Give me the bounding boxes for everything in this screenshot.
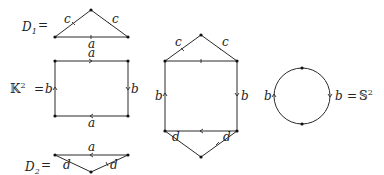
vertex-dot	[126, 35, 129, 38]
klein-label-bottom: a	[88, 116, 95, 130]
vertex-dot	[89, 8, 92, 11]
d1-equals: =	[38, 18, 48, 32]
hex-label-ur: c	[222, 35, 229, 49]
vertex-dot	[126, 59, 129, 62]
d1-name: D1	[21, 20, 37, 36]
klein-rect	[55, 61, 128, 116]
hex-label-ll: d	[172, 130, 180, 144]
hex-label-right: b	[241, 89, 249, 103]
d2-triangle: a D2 = d d	[24, 140, 130, 175]
vertex-dot	[53, 59, 56, 62]
vertex-dot	[126, 114, 129, 117]
sphere-label-right: b	[335, 89, 343, 103]
vertex-dot	[300, 122, 303, 125]
vertex-dot	[89, 170, 92, 173]
hex-label-ul: c	[175, 35, 182, 49]
vertex-dot	[235, 59, 238, 62]
sphere-outline	[274, 68, 330, 124]
vertex-dot	[235, 129, 238, 132]
d1-label-right: c	[112, 12, 119, 26]
d2-label-top: a	[88, 140, 95, 154]
klein-name: 𝕂2	[10, 81, 26, 96]
sphere-label-left: b	[264, 89, 272, 103]
hexagon: c c b b d d	[155, 33, 249, 158]
vertex-dot	[300, 66, 303, 69]
vertex-dot	[53, 35, 56, 38]
d2-label-right: d	[110, 158, 118, 172]
sphere-circle: b b = 𝕊2	[264, 66, 373, 125]
vertex-dot	[163, 129, 166, 132]
d2-label-left: d	[63, 158, 71, 172]
sphere-equals: =	[347, 89, 357, 103]
klein-label-top: a	[88, 46, 95, 60]
vertex-dot	[53, 153, 56, 156]
vertex-dot	[199, 33, 202, 36]
sphere-name: 𝕊2	[359, 88, 373, 103]
hex-label-left: b	[155, 89, 163, 103]
hex-arrow-ur-icon	[218, 47, 221, 50]
d2-equals: =	[41, 158, 51, 172]
gluing-diagram: D1 = c c a a 𝕂2 = b b a a	[0, 0, 384, 175]
vertex-dot	[53, 114, 56, 117]
vertex-dot	[126, 153, 129, 156]
d1-arrow-right-icon	[108, 22, 111, 25]
d1-triangle: D1 = c c a	[21, 8, 130, 51]
klein-square: a 𝕂2 = b b a	[10, 46, 139, 130]
klein-label-left: b	[45, 82, 53, 96]
klein-label-right: b	[131, 82, 139, 96]
klein-equals: =	[34, 82, 44, 96]
d1-label-left: c	[64, 12, 71, 26]
vertex-dot	[163, 59, 166, 62]
vertex-dot	[199, 155, 202, 158]
hex-label-lr: d	[223, 130, 231, 144]
d2-name: D2	[24, 160, 40, 175]
